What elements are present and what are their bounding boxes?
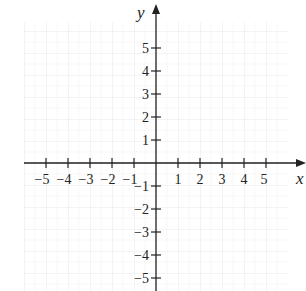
- y-tick-label: −4: [134, 248, 149, 263]
- y-tick-label: −3: [134, 225, 149, 240]
- x-tick-label: −4: [57, 172, 72, 187]
- x-tick-label: 2: [197, 172, 204, 187]
- x-tick-label: 5: [261, 172, 268, 187]
- x-tick-label: 4: [241, 172, 248, 187]
- x-tick-label: 1: [175, 172, 182, 187]
- y-tick-label: 2: [142, 110, 149, 125]
- x-axis-arrow-icon: [296, 159, 306, 167]
- y-tick-label: −5: [134, 271, 149, 286]
- x-tick-label: 3: [219, 172, 226, 187]
- y-tick-label: −1: [134, 179, 149, 194]
- y-tick-label: 1: [142, 133, 149, 148]
- x-axis-label: x: [295, 169, 304, 188]
- y-axis-label: y: [135, 3, 145, 22]
- y-tick-label: 3: [142, 87, 149, 102]
- y-tick-label: −2: [134, 202, 149, 217]
- y-tick-label: 4: [142, 64, 149, 79]
- coordinate-plane: −5 −4 −3 −2 −1 1 2 3 4 5 x: [0, 0, 306, 291]
- x-tick-label: −2: [101, 172, 116, 187]
- x-tick-label: −3: [79, 172, 94, 187]
- y-axis-arrow-icon: [152, 4, 160, 14]
- x-tick-label: −5: [35, 172, 50, 187]
- y-tick-label: 5: [142, 41, 149, 56]
